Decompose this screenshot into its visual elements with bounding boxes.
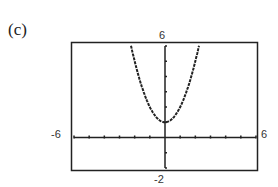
graph	[0, 0, 278, 187]
axes	[74, 46, 256, 168]
